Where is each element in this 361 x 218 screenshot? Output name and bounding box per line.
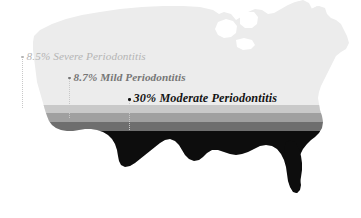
- usa-map-graphic: [0, 0, 361, 218]
- leader-line-severe: [22, 57, 24, 108]
- band-moderate: [0, 122, 361, 131]
- bullet-moderate-icon: [128, 98, 131, 101]
- bullet-severe-icon: [21, 56, 24, 59]
- band-severe: [0, 105, 361, 113]
- label-moderate-text: 30% Moderate Periodontitis: [134, 91, 277, 106]
- label-mild-periodontitis: 8.7% Mild Periodontitis: [68, 71, 186, 83]
- label-severe-text: 8.5% Severe Periodontitis: [27, 50, 146, 62]
- label-severe-periodontitis: 8.5% Severe Periodontitis: [21, 50, 146, 62]
- leader-line-mild: [69, 78, 71, 118]
- band-base: [0, 131, 361, 218]
- label-moderate-periodontitis: 30% Moderate Periodontitis: [128, 91, 277, 106]
- bullet-mild-icon: [68, 77, 71, 80]
- band-mild: [0, 113, 361, 122]
- label-mild-text: 8.7% Mild Periodontitis: [74, 71, 186, 83]
- periodontitis-map-figure: 8.5% Severe Periodontitis 8.7% Mild Peri…: [0, 0, 361, 218]
